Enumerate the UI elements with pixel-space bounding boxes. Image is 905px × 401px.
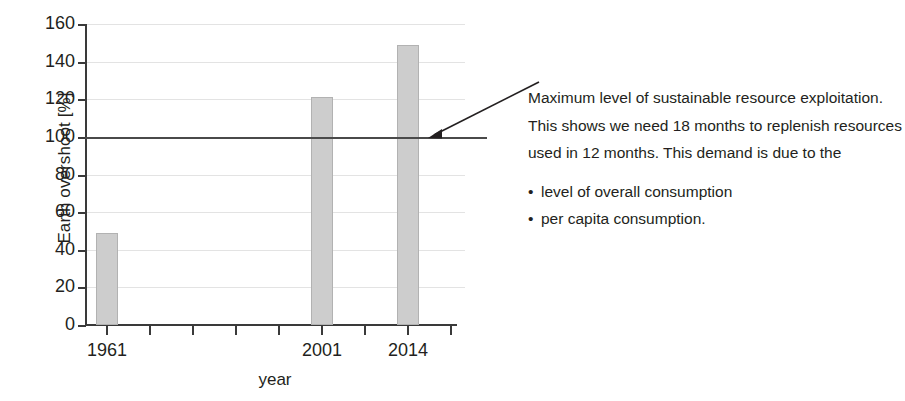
x-axis-tick-mark (321, 326, 323, 335)
x-axis-tick-mark (364, 326, 366, 335)
annotation-text-block: Maximum level of sustainable resource ex… (528, 84, 903, 233)
annotation-bullet-item: level of overall consumption (528, 178, 903, 206)
bar-1961 (96, 233, 118, 325)
x-axis-tick-label: 2014 (388, 340, 428, 361)
earth-overshoot-chart-figure: Earth overshoot [%] 02040608010012014016… (0, 0, 905, 401)
x-axis-tick-mark (278, 326, 280, 335)
y-axis-tick-label: 160 (45, 13, 75, 34)
x-axis-tick-mark (149, 326, 151, 335)
annotation-bullet-item: per capita consumption. (528, 205, 903, 233)
annotation-arrow-icon (415, 78, 545, 148)
x-axis-tick-label: 2001 (302, 340, 342, 361)
x-axis-tick-mark (235, 326, 237, 335)
plot-area: 020406080100120140160 196120012014 (85, 24, 465, 325)
y-axis-tick-label: 80 (55, 164, 75, 185)
y-axis-tick-mark (78, 212, 86, 214)
x-axis-tick-mark (192, 326, 194, 335)
x-axis-title: year (85, 370, 465, 390)
y-axis-tick-mark (78, 62, 86, 64)
y-axis-tick-mark (78, 287, 86, 289)
x-axis-tick-mark (450, 326, 452, 335)
y-axis-tick-mark (78, 175, 86, 177)
y-axis-tick-label: 0 (65, 314, 75, 335)
y-axis-tick-label: 120 (45, 88, 75, 109)
gridline (87, 24, 465, 25)
y-axis-tick-label: 40 (55, 239, 75, 260)
annotation-paragraph: Maximum level of sustainable resource ex… (528, 84, 903, 167)
y-axis-tick-mark (78, 24, 86, 26)
bar-2001 (311, 97, 333, 325)
annotation-bullet-list: level of overall consumptionper capita c… (528, 178, 903, 233)
x-axis-tick-label: 1961 (87, 340, 127, 361)
y-axis-tick-label: 100 (45, 126, 75, 147)
y-axis-tick-mark (78, 99, 86, 101)
x-axis-tick-mark (106, 326, 108, 335)
y-axis-tick-label: 140 (45, 51, 75, 72)
y-axis-tick-mark (78, 250, 86, 252)
x-axis-tick-mark (407, 326, 409, 335)
y-axis-tick-mark (78, 325, 86, 327)
y-axis-tick-label: 20 (55, 276, 75, 297)
y-axis-tick-label: 60 (55, 201, 75, 222)
